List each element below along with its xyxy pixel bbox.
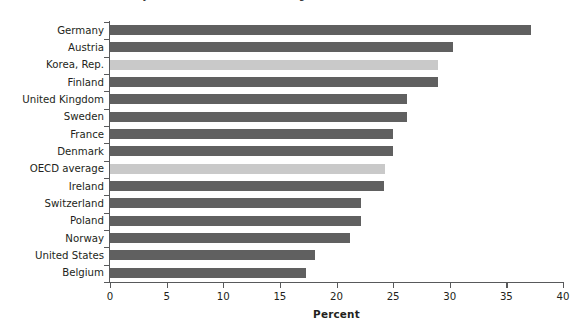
bar bbox=[110, 25, 531, 35]
bar-row bbox=[110, 143, 563, 160]
x-axis-tick bbox=[563, 283, 564, 288]
bar-row bbox=[110, 265, 563, 282]
y-axis-tick bbox=[104, 230, 109, 231]
bar-row bbox=[110, 195, 563, 212]
y-axis-label: Austria bbox=[0, 43, 104, 53]
bar bbox=[110, 164, 385, 174]
bar bbox=[110, 233, 350, 243]
y-axis-tick bbox=[104, 39, 109, 40]
y-axis-tick bbox=[104, 143, 109, 144]
bar-row bbox=[110, 91, 563, 108]
x-axis-tick bbox=[450, 283, 451, 288]
x-axis-tick-label: 5 bbox=[147, 291, 187, 302]
bar-row bbox=[110, 22, 563, 39]
y-axis-label: United Kingdom bbox=[0, 95, 104, 105]
y-axis-label: Finland bbox=[0, 78, 104, 88]
y-axis-tick bbox=[104, 161, 109, 162]
y-axis-label: Poland bbox=[0, 216, 104, 226]
y-axis-tick bbox=[104, 282, 109, 283]
y-axis-tick bbox=[104, 247, 109, 248]
y-axis-label: Korea, Rep. bbox=[0, 60, 104, 70]
bar bbox=[110, 112, 407, 122]
x-axis-tick-label: 15 bbox=[260, 291, 300, 302]
bar-row bbox=[110, 230, 563, 247]
y-axis-tick bbox=[104, 178, 109, 179]
plot-area bbox=[110, 22, 563, 282]
bar bbox=[110, 181, 384, 191]
y-axis-tick bbox=[104, 57, 109, 58]
y-axis-label: OECD average bbox=[0, 164, 104, 174]
bar bbox=[110, 198, 361, 208]
bar-row bbox=[110, 178, 563, 195]
y-axis-label: Denmark bbox=[0, 147, 104, 157]
bar bbox=[110, 77, 438, 87]
x-axis-tick-label: 35 bbox=[486, 291, 526, 302]
y-axis-tick bbox=[104, 91, 109, 92]
y-axis-label: United States bbox=[0, 251, 104, 261]
bar-row bbox=[110, 126, 563, 143]
x-axis-tick bbox=[167, 283, 168, 288]
x-axis-tick bbox=[280, 283, 281, 288]
x-axis-tick bbox=[223, 283, 224, 288]
bar bbox=[110, 250, 315, 260]
x-axis-tick bbox=[393, 283, 394, 288]
y-axis-tick bbox=[104, 109, 109, 110]
bar bbox=[110, 216, 361, 226]
bar-row bbox=[110, 109, 563, 126]
x-axis-tick bbox=[337, 283, 338, 288]
bar bbox=[110, 129, 393, 139]
y-axis-label: Germany bbox=[0, 26, 104, 36]
bar-row bbox=[110, 39, 563, 56]
bar bbox=[110, 60, 438, 70]
bar bbox=[110, 42, 453, 52]
x-axis-tick-label: 10 bbox=[203, 291, 243, 302]
y-axis-tick bbox=[104, 22, 109, 23]
bar-row bbox=[110, 213, 563, 230]
x-axis-tick bbox=[110, 283, 111, 288]
chart-figure: FIGURE 5.6 Share of tertiary educated in… bbox=[0, 0, 587, 330]
y-axis-tick bbox=[104, 265, 109, 266]
bar bbox=[110, 268, 306, 278]
x-axis-tick-label: 25 bbox=[373, 291, 413, 302]
x-axis-tick-label: 0 bbox=[90, 291, 130, 302]
y-axis-label: Norway bbox=[0, 234, 104, 244]
x-axis-tick-label: 20 bbox=[317, 291, 357, 302]
x-axis-tick-label: 40 bbox=[543, 291, 583, 302]
y-axis-label: Ireland bbox=[0, 182, 104, 192]
y-axis-label: France bbox=[0, 130, 104, 140]
bar-row bbox=[110, 247, 563, 264]
y-axis-tick bbox=[104, 126, 109, 127]
y-axis-label: Switzerland bbox=[0, 199, 104, 209]
y-axis-labels: GermanyAustriaKorea, Rep.FinlandUnited K… bbox=[0, 22, 104, 282]
y-axis-label: Belgium bbox=[0, 268, 104, 278]
bar bbox=[110, 94, 407, 104]
x-axis-tick bbox=[506, 283, 507, 288]
y-axis-tick bbox=[104, 213, 109, 214]
bar-row bbox=[110, 161, 563, 178]
y-axis-tick bbox=[104, 74, 109, 75]
bar bbox=[110, 146, 393, 156]
x-axis-tick-label: 30 bbox=[430, 291, 470, 302]
x-axis-title: Percent bbox=[110, 308, 563, 320]
y-axis-tick bbox=[104, 195, 109, 196]
bar-row bbox=[110, 74, 563, 91]
bar-row bbox=[110, 57, 563, 74]
figure-caption: FIGURE 5.6 Share of tertiary educated in… bbox=[8, 0, 568, 5]
y-axis-label: Sweden bbox=[0, 112, 104, 122]
